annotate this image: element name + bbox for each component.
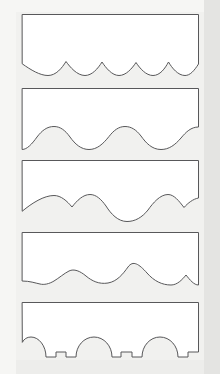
panel-mixed-hump[interactable] bbox=[23, 233, 199, 286]
panel-small-scallop[interactable] bbox=[23, 15, 199, 76]
paper-grain-left bbox=[0, 0, 16, 374]
paper-grain-bottom bbox=[0, 360, 220, 374]
paper-grain-right bbox=[204, 0, 220, 374]
profile-sheet-canvas bbox=[0, 0, 220, 374]
profile-sheet bbox=[0, 0, 220, 374]
paper-grain-top bbox=[0, 0, 220, 12]
